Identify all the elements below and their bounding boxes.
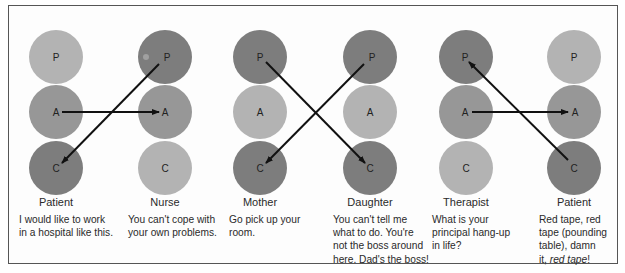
state-letter: P	[571, 52, 578, 63]
state-letter: A	[367, 107, 374, 118]
caption-mother: Go pick up your room.	[229, 213, 300, 239]
state-letter: A	[162, 107, 169, 118]
state-letter: C	[366, 163, 373, 174]
state-letter: C	[570, 163, 577, 174]
state-letter: P	[462, 52, 469, 63]
caption-patient: I would like to work in a hospital like …	[19, 213, 113, 239]
state-letter: C	[462, 163, 469, 174]
state-letter: C	[52, 163, 59, 174]
state-letter: C	[161, 163, 168, 174]
state-letter: P	[369, 52, 376, 63]
caption-emphasis: red tape	[550, 254, 587, 265]
caption-nurse: You can't cope with your own problems.	[128, 213, 217, 239]
state-letter: A	[53, 107, 60, 118]
role-label-nurse: Nurse	[120, 196, 210, 208]
state-letter: P	[164, 52, 171, 63]
state-letter: C	[256, 163, 263, 174]
mother-ego-states: P A C	[233, 30, 287, 195]
state-letter: A	[572, 107, 579, 118]
caption-text: !	[587, 254, 590, 265]
role-label-daughter: Daughter	[325, 196, 415, 208]
caption-therapist: What is your principal hang-up in life?	[432, 213, 510, 253]
role-label-mother: Mother	[215, 196, 305, 208]
role-label-patient: Patient	[11, 196, 101, 208]
caption-patient2: Red tape, red tape (pounding table), dam…	[539, 213, 607, 266]
state-letter: A	[257, 107, 264, 118]
role-label-patient2: Patient	[529, 196, 619, 208]
daughter-ego-states: P A C	[343, 30, 397, 195]
role-label-therapist: Therapist	[421, 196, 511, 208]
highlight-spot	[143, 54, 149, 60]
caption-daughter: You can't tell me what to do. You're not…	[333, 213, 429, 266]
state-letter: A	[462, 107, 469, 118]
state-letter: P	[257, 52, 264, 63]
state-letter: P	[53, 52, 60, 63]
